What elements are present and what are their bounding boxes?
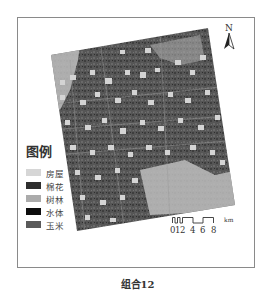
legend-item-water: 水体: [26, 205, 64, 218]
legend-label: 玉米: [46, 219, 64, 231]
legend-item-corn: 玉米: [26, 218, 64, 231]
map-legend: 图例 房屋 棉花 树林 水体 玉米: [26, 141, 64, 231]
legend-label: 房屋: [46, 167, 64, 179]
north-arrow: N: [222, 24, 236, 55]
scale-bar: km 0 1 2 4 6 8: [172, 216, 242, 238]
scale-bar-graphic: [172, 216, 224, 224]
legend-swatch: [26, 195, 41, 202]
scale-unit: km: [224, 216, 233, 223]
scale-tick-label: 6: [200, 225, 205, 235]
scale-tick-label: 8: [211, 225, 216, 235]
legend-label: 水体: [46, 206, 64, 218]
north-letter: N: [222, 24, 236, 33]
legend-swatch: [26, 208, 41, 215]
figure-caption: 组合12: [0, 276, 275, 290]
legend-title: 图例: [26, 141, 64, 160]
legend-label: 棉花: [46, 180, 64, 192]
legend-swatch: [26, 182, 41, 189]
legend-swatch: [26, 169, 41, 176]
scale-tick-label: 4: [190, 225, 195, 235]
legend-swatch: [26, 221, 41, 228]
legend-item-forest: 树林: [26, 192, 64, 205]
map-raster: [40, 20, 250, 240]
legend-label: 树林: [46, 193, 64, 205]
scale-tick-label: 2: [180, 225, 185, 235]
legend-item-house: 房屋: [26, 166, 64, 179]
north-arrow-icon: [222, 33, 236, 51]
legend-item-cotton: 棉花: [26, 179, 64, 192]
